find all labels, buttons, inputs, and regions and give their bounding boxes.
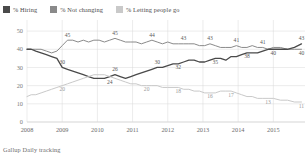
x-axis-tick-label: 2014	[232, 126, 245, 133]
legend-item-not_changing[interactable]: % Not changing	[50, 6, 103, 13]
chart-legend: % Hiring% Not changing% Letting people g…	[3, 3, 193, 15]
y-axis-tick-label: 0	[20, 118, 23, 125]
chart-plot-area: 0102030405020082009201020112012201320142…	[0, 16, 308, 141]
y-axis-tick-label: 30	[17, 64, 23, 71]
data-point-label: 41	[234, 37, 240, 43]
data-point-label: 16	[207, 93, 213, 99]
data-point-label: 20	[59, 86, 65, 92]
source-note: Gallup Daily tracking	[3, 146, 61, 153]
data-point-label: 38	[244, 53, 250, 59]
y-axis-tick-label: 50	[17, 27, 23, 34]
data-point-label: 45	[65, 32, 71, 38]
data-point-label: 40	[299, 50, 305, 56]
x-axis-tick-label: 2015	[267, 126, 280, 133]
legend-swatch-icon	[116, 6, 123, 13]
data-point-label: 41	[260, 39, 266, 45]
series-line-hiring	[27, 44, 301, 79]
data-point-label: 18	[176, 88, 182, 94]
data-point-label: 35	[212, 59, 218, 65]
data-point-label: 32	[176, 64, 182, 70]
legend-swatch-icon	[50, 6, 57, 13]
y-axis-tick-label: 10	[17, 100, 23, 107]
x-axis-tick-label: 2009	[56, 126, 69, 133]
data-point-label: 43	[207, 35, 213, 41]
y-axis-tick-label: 20	[17, 82, 23, 89]
legend-item-hiring[interactable]: % Hiring	[3, 6, 37, 13]
x-axis-tick-label: 2011	[126, 126, 138, 133]
legend-item-letting_go[interactable]: % Letting people go	[116, 6, 180, 13]
data-point-label: 45	[112, 30, 118, 36]
data-point-label: 24	[107, 79, 113, 85]
data-point-label: 30	[154, 59, 160, 65]
legend-label: % Hiring	[13, 6, 37, 13]
data-point-label: 40	[271, 50, 277, 56]
x-axis-tick-label: 2012	[161, 126, 174, 133]
line-chart-svg: 0102030405020082009201020112012201320142…	[0, 16, 308, 141]
series-line-letting-people-go	[27, 75, 301, 102]
chart-container: % Hiring% Not changing% Letting people g…	[0, 0, 308, 161]
data-point-label: 26	[112, 66, 118, 72]
legend-swatch-icon	[3, 6, 10, 13]
data-point-label: 43	[299, 35, 305, 41]
y-axis-tick-label: 40	[17, 45, 23, 52]
x-axis-tick-label: 2013	[197, 126, 210, 133]
data-point-label: 17	[228, 92, 234, 98]
legend-label: % Not changing	[60, 6, 103, 13]
data-point-label: 43	[181, 35, 187, 41]
x-axis-tick-label: 2008	[21, 126, 34, 133]
data-point-label: 20	[144, 86, 150, 92]
data-point-label: 30	[59, 59, 65, 65]
data-point-label: 11	[299, 103, 305, 109]
data-point-label: 13	[265, 99, 271, 105]
x-axis-tick-label: 2010	[91, 126, 104, 133]
legend-label: % Letting people go	[126, 6, 180, 13]
data-point-label: 44	[149, 32, 155, 38]
